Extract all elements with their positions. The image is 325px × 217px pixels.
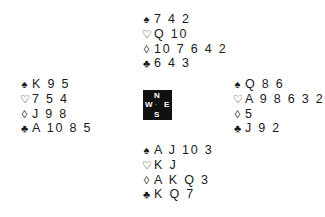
south-clubs-row: ♣ K Q 7: [142, 187, 214, 202]
compass-box: N W · E S: [143, 90, 172, 120]
north-spades-row: ♠ 7 4 2: [142, 12, 228, 27]
spade-icon: ♠: [20, 77, 29, 92]
compass-south-label: S: [154, 110, 159, 119]
east-diamonds: 5: [245, 107, 254, 122]
spade-icon: ♠: [233, 77, 242, 92]
compass-center-dot: ·: [155, 101, 157, 107]
south-spades-row: ♠ A J 10 3: [142, 143, 214, 158]
diamond-icon: ◊: [233, 107, 242, 122]
east-spades: Q 8 6: [245, 77, 285, 92]
west-clubs: A 10 8 5: [32, 121, 92, 136]
west-hearts-row: ♡ 7 5 4: [20, 92, 92, 107]
diamond-icon: ◊: [20, 107, 29, 122]
heart-icon: ♡: [233, 92, 242, 107]
south-hand: ♠ A J 10 3 ♡ K J ◊ A K Q 3 ♣ K Q 7: [142, 143, 214, 202]
compass-east-label: E: [164, 100, 169, 109]
west-spades: K 9 5: [32, 77, 70, 92]
club-icon: ♣: [20, 121, 29, 136]
heart-icon: ♡: [142, 158, 151, 173]
south-spades: A J 10 3: [154, 143, 214, 158]
heart-icon: ♡: [142, 27, 151, 42]
compass-north-label: N: [154, 91, 160, 100]
north-diamonds: 10 7 6 4 2: [154, 42, 228, 57]
east-diamonds-row: ◊ 5: [233, 107, 325, 122]
club-icon: ♣: [142, 187, 151, 202]
north-hand: ♠ 7 4 2 ♡ Q 10 ◊ 10 7 6 4 2 ♣ 6 4 3: [142, 12, 228, 71]
north-hearts-row: ♡ Q 10: [142, 27, 228, 42]
heart-icon: ♡: [20, 92, 29, 107]
east-clubs: J 9 2: [245, 121, 281, 136]
club-icon: ♣: [142, 56, 151, 71]
west-hand: ♠ K 9 5 ♡ 7 5 4 ◊ J 9 8 ♣ A 10 8 5: [20, 77, 92, 136]
west-diamonds: J 9 8: [32, 107, 68, 122]
east-hand: ♠ Q 8 6 ♡ A 9 8 6 3 2 ◊ 5 ♣ J 9 2: [233, 77, 325, 136]
north-spades: 7 4 2: [154, 12, 191, 27]
spade-icon: ♠: [142, 143, 151, 158]
diamond-icon: ◊: [142, 42, 151, 57]
east-clubs-row: ♣ J 9 2: [233, 121, 325, 136]
east-hearts: A 9 8 6 3 2: [245, 92, 325, 107]
north-clubs-row: ♣ 6 4 3: [142, 56, 228, 71]
north-diamonds-row: ◊ 10 7 6 4 2: [142, 42, 228, 57]
south-hearts: K J: [154, 158, 177, 173]
east-spades-row: ♠ Q 8 6: [233, 77, 325, 92]
west-hearts: 7 5 4: [32, 92, 69, 107]
west-clubs-row: ♣ A 10 8 5: [20, 121, 92, 136]
north-clubs: 6 4 3: [154, 56, 191, 71]
east-hearts-row: ♡ A 9 8 6 3 2: [233, 92, 325, 107]
south-diamonds-row: ◊ A K Q 3: [142, 173, 214, 188]
west-spades-row: ♠ K 9 5: [20, 77, 92, 92]
diamond-icon: ◊: [142, 173, 151, 188]
south-clubs: K Q 7: [154, 187, 195, 202]
west-diamonds-row: ◊ J 9 8: [20, 107, 92, 122]
south-diamonds: A K Q 3: [154, 173, 210, 188]
club-icon: ♣: [233, 121, 242, 136]
compass-west-label: W: [145, 100, 153, 109]
south-hearts-row: ♡ K J: [142, 158, 214, 173]
spade-icon: ♠: [142, 12, 151, 27]
north-hearts: Q 10: [154, 27, 188, 42]
